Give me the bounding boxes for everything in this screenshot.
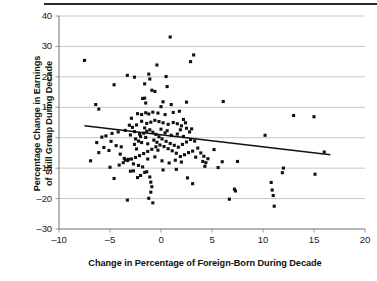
data-point bbox=[97, 151, 100, 154]
data-point bbox=[148, 175, 151, 178]
data-point bbox=[115, 144, 118, 147]
data-point bbox=[170, 103, 173, 106]
data-point bbox=[161, 121, 164, 124]
data-point bbox=[137, 164, 140, 167]
data-point bbox=[313, 173, 316, 176]
data-point bbox=[167, 123, 170, 126]
data-points bbox=[83, 35, 326, 207]
data-point bbox=[149, 121, 152, 124]
data-point bbox=[282, 167, 285, 170]
x-tick-label-15: 15 bbox=[299, 234, 329, 245]
data-point bbox=[129, 170, 132, 173]
data-point bbox=[212, 148, 215, 151]
data-point bbox=[164, 113, 167, 116]
data-point bbox=[312, 115, 315, 118]
data-point bbox=[140, 141, 143, 144]
data-point bbox=[160, 159, 163, 162]
data-point bbox=[117, 130, 120, 133]
data-point bbox=[163, 145, 166, 148]
y-tick-label-10: 10 bbox=[26, 101, 52, 112]
data-point bbox=[178, 110, 181, 113]
data-point bbox=[175, 152, 178, 155]
data-point bbox=[179, 128, 182, 131]
data-point bbox=[159, 128, 162, 131]
data-point bbox=[139, 174, 142, 177]
data-point bbox=[153, 119, 156, 122]
data-point bbox=[145, 122, 148, 125]
data-point bbox=[185, 101, 188, 104]
data-point bbox=[131, 126, 134, 129]
data-point bbox=[228, 198, 231, 201]
data-point bbox=[186, 176, 189, 179]
data-point bbox=[180, 161, 183, 164]
x-tick-label-5: 5 bbox=[197, 234, 227, 245]
data-point bbox=[138, 154, 141, 157]
scatter-plot-figure: Percentage Change in Earnings of Skill G… bbox=[0, 0, 377, 281]
data-point bbox=[130, 117, 133, 120]
data-point bbox=[126, 159, 129, 162]
data-point bbox=[263, 134, 266, 137]
data-point bbox=[136, 112, 139, 115]
data-point bbox=[173, 144, 176, 147]
trend-line bbox=[85, 126, 331, 155]
data-point bbox=[169, 142, 172, 145]
y-tick-label-0: 0 bbox=[26, 132, 52, 143]
data-point bbox=[152, 139, 155, 142]
data-point bbox=[161, 168, 164, 171]
data-point bbox=[136, 176, 139, 179]
data-point bbox=[236, 160, 239, 163]
data-point bbox=[189, 60, 192, 63]
data-point bbox=[107, 149, 110, 152]
data-point bbox=[135, 147, 138, 150]
data-point bbox=[234, 189, 237, 192]
data-point bbox=[165, 75, 168, 78]
data-point bbox=[133, 76, 136, 79]
data-point bbox=[110, 132, 113, 135]
data-point bbox=[147, 112, 150, 115]
axis-lines bbox=[59, 16, 365, 229]
data-point bbox=[140, 120, 143, 123]
data-point bbox=[187, 151, 190, 154]
data-point bbox=[160, 137, 163, 140]
data-point bbox=[222, 100, 225, 103]
y-tick-label--30: –30 bbox=[26, 223, 52, 234]
data-point bbox=[147, 197, 150, 200]
data-point bbox=[147, 73, 150, 76]
data-point bbox=[156, 112, 159, 115]
data-point bbox=[271, 189, 274, 192]
data-point bbox=[203, 165, 206, 168]
data-point bbox=[292, 114, 295, 117]
x-tick-label--10: –10 bbox=[44, 234, 74, 245]
data-point bbox=[156, 149, 159, 152]
data-point bbox=[172, 121, 175, 124]
data-point bbox=[108, 166, 111, 169]
data-point bbox=[119, 153, 122, 156]
data-point bbox=[89, 159, 92, 162]
data-point bbox=[165, 140, 168, 143]
data-point bbox=[118, 164, 121, 167]
gridlines bbox=[59, 16, 365, 199]
data-point bbox=[137, 140, 140, 143]
data-point bbox=[281, 171, 284, 174]
data-point bbox=[206, 157, 209, 160]
data-point bbox=[159, 105, 162, 108]
data-point bbox=[144, 136, 147, 139]
data-point bbox=[188, 130, 191, 133]
data-point bbox=[199, 151, 202, 154]
data-point bbox=[102, 146, 105, 149]
data-point bbox=[146, 150, 149, 153]
data-point bbox=[176, 122, 179, 125]
data-point bbox=[151, 111, 154, 114]
data-point bbox=[126, 74, 129, 77]
data-point bbox=[143, 126, 146, 129]
data-point bbox=[166, 85, 169, 88]
data-point bbox=[132, 162, 135, 165]
data-point bbox=[153, 90, 156, 93]
data-point bbox=[169, 35, 172, 38]
data-point bbox=[113, 177, 116, 180]
data-point bbox=[153, 155, 156, 158]
data-point bbox=[134, 156, 137, 159]
data-point bbox=[122, 161, 125, 164]
data-point bbox=[104, 134, 107, 137]
data-point bbox=[109, 140, 112, 143]
